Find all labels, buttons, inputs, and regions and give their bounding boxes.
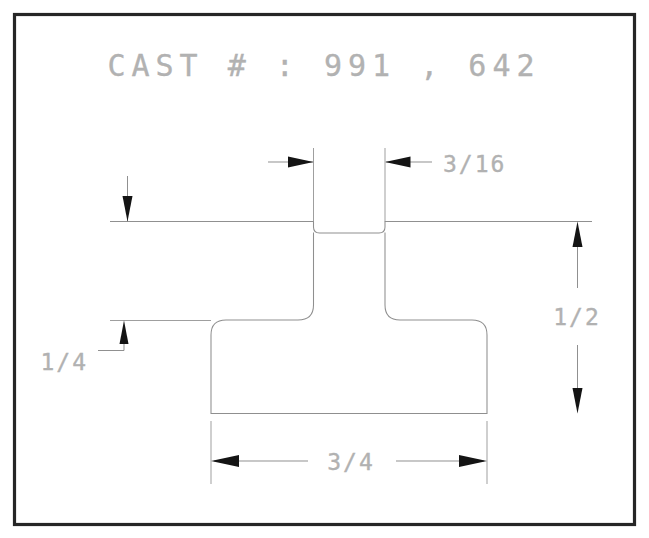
web-width-dimension-label: 3/16	[443, 151, 506, 177]
drawing-title: CAST # : 991 , 642	[107, 48, 540, 83]
web-dim-arrow-left	[288, 157, 314, 168]
height-top-arrow	[123, 196, 133, 222]
drawing-canvas: CAST # : 991 , 642 3/16 1/2	[0, 0, 649, 538]
width-dim-arrow-right	[459, 455, 487, 467]
height-dim-arrow-down	[573, 388, 583, 414]
drawing-frame-border	[15, 15, 635, 525]
web-dim-arrow-right	[385, 157, 411, 168]
cad-drawing-page: CAST # : 991 , 642 3/16 1/2	[0, 0, 649, 538]
overall-height-dimension-label: 1/2	[553, 304, 601, 330]
width-dim-arrow-left	[211, 455, 239, 467]
t-profile-outline	[211, 222, 487, 414]
flange-thickness-dimension-label: 1/4	[40, 349, 88, 375]
thickness-leader-arrow	[120, 321, 129, 345]
height-dim-arrow-up	[573, 222, 583, 248]
flange-width-dimension-label: 3/4	[327, 449, 375, 475]
